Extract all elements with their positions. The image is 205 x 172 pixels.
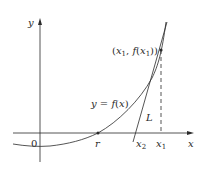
tick-label-r: r [95, 138, 101, 149]
newton-method-diagram: y x 0 (x1, f(x1)) y = f(x) L r x2 x1 [0, 0, 205, 172]
x-axis-label: x [188, 138, 194, 149]
point-label: (x1, f(x1)) [112, 45, 158, 58]
tangent-label: L [145, 112, 153, 123]
tick-label-x2: x2 [136, 138, 146, 151]
origin-label: 0 [31, 138, 37, 149]
point-x1-fx1 [159, 48, 162, 51]
y-axis-label: y [27, 17, 34, 28]
tick-label-x1: x1 [156, 138, 166, 151]
curve-label: y = f(x) [90, 98, 129, 109]
point-r [97, 132, 100, 135]
curve-f [13, 22, 166, 146]
x-axis-arrow-icon [187, 131, 194, 135]
y-axis-arrow-icon [38, 18, 42, 25]
tangent-line-L [133, 22, 167, 142]
